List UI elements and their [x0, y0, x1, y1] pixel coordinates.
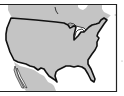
us-outline-map [0, 0, 124, 96]
speck-mark [121, 60, 122, 61]
